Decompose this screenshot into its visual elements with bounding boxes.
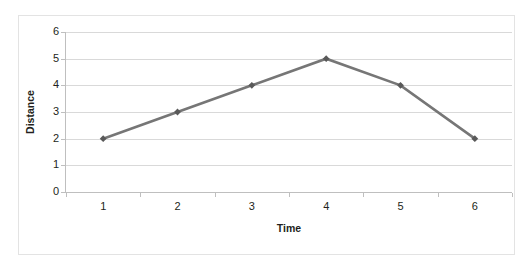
data-point-marker [174, 109, 181, 116]
series-layer [0, 0, 531, 268]
series-markers [100, 55, 478, 142]
data-point-marker [248, 82, 255, 89]
data-point-marker [323, 55, 330, 62]
data-point-marker [100, 135, 107, 142]
series-line-distance [103, 59, 475, 139]
